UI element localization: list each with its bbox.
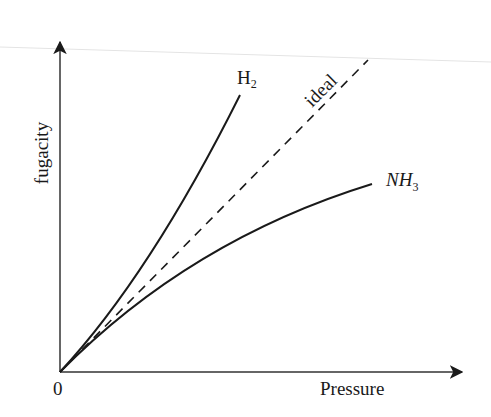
nh3-curve [60, 184, 372, 372]
origin-label: 0 [53, 378, 63, 399]
fugacity-vs-pressure-chart: fugacity Pressure 0 H2 ideal NH3 [0, 0, 491, 417]
h2-label: H2 [237, 67, 257, 91]
ideal-line [60, 60, 368, 372]
y-axis-label: fugacity [31, 121, 52, 184]
ideal-label: ideal [300, 70, 341, 111]
nh3-label: NH3 [385, 169, 418, 194]
x-axis-label: Pressure [320, 378, 384, 399]
scan-artifact-line [0, 47, 491, 62]
h2-curve [60, 95, 240, 372]
